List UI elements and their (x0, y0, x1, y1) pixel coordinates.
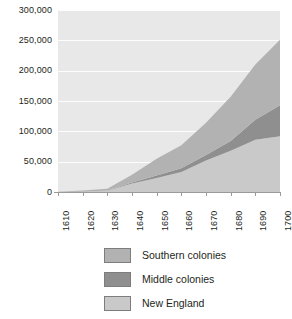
x-axis-tick (132, 192, 133, 196)
legend-item-middle-colonies: Middle colonies (104, 268, 226, 290)
y-axis-tick-label: 0 (0, 188, 52, 197)
legend-label-southern-colonies: Southern colonies (142, 250, 226, 261)
x-axis-tick-label: 1640 (136, 211, 145, 231)
x-axis-tick (231, 192, 232, 196)
y-axis-tick-label: 250,000 (0, 36, 52, 45)
x-axis-tick-label: 1650 (161, 211, 170, 231)
x-axis-tick-label: 1690 (259, 211, 268, 231)
legend-label-new-england: New England (142, 298, 204, 309)
chart-legend: Southern colonies Middle colonies New En… (104, 244, 226, 316)
x-axis-tick (58, 192, 59, 196)
x-axis-tick-label: 1680 (235, 211, 244, 231)
x-axis-tick (255, 192, 256, 196)
x-axis-tick (181, 192, 182, 196)
x-axis-tick (280, 192, 281, 196)
x-axis-tick (83, 192, 84, 196)
x-axis-tick-label: 1630 (111, 211, 120, 231)
x-axis-tick (157, 192, 158, 196)
x-axis-tick-label: 1610 (62, 211, 71, 231)
legend-swatch-southern-colonies (104, 248, 131, 263)
y-axis-tick-label: 300,000 (0, 6, 52, 15)
legend-swatch-new-england (104, 296, 131, 311)
x-axis-tick-label: 1620 (87, 211, 96, 231)
y-axis-tick-label: 200,000 (0, 66, 52, 75)
legend-label-middle-colonies: Middle colonies (142, 274, 214, 285)
x-axis-tick (107, 192, 108, 196)
x-axis-tick-label: 1670 (210, 211, 219, 231)
x-axis-tick-label: 1660 (185, 211, 194, 231)
x-axis-tick (206, 192, 207, 196)
plot-region: 050,000100,000150,000200,000250,000300,0… (0, 0, 292, 232)
y-axis-tick-label: 150,000 (0, 97, 52, 106)
stacked-area-series (58, 10, 280, 192)
y-axis-tick-label: 100,000 (0, 127, 52, 136)
legend-item-new-england: New England (104, 292, 226, 314)
y-axis-tick-labels: 050,000100,000150,000200,000250,000300,0… (0, 0, 52, 192)
population-growth-area-chart: 050,000100,000150,000200,000250,000300,0… (0, 0, 292, 319)
y-axis-tick-label: 50,000 (0, 157, 52, 166)
legend-swatch-middle-colonies (104, 272, 131, 287)
x-axis-tick-label: 1700 (284, 211, 292, 231)
legend-item-southern-colonies: Southern colonies (104, 244, 226, 266)
x-axis-line (54, 192, 281, 193)
